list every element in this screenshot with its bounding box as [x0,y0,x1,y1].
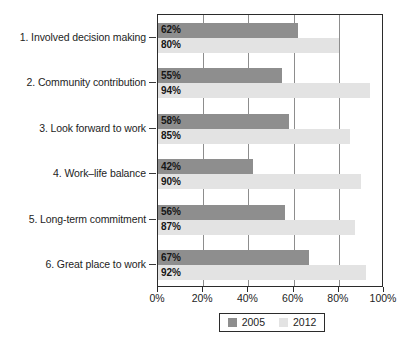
bar-row: 85% [158,129,383,144]
bar-2012-6 [158,265,366,280]
bar-value-label: 80% [161,40,181,50]
category-tick-4 [149,173,156,174]
bar-value-label: 92% [161,268,181,278]
bar-2012-3 [158,129,350,144]
gridline-40 [248,15,249,286]
bar-value-label: 94% [161,86,181,96]
bar-row: 87% [158,220,383,235]
x-tick-label-80%: 80% [327,292,348,304]
plot-area: 62%80%55%94%58%85%42%90%56%87%67%92% [157,14,383,287]
bar-row: 94% [158,83,383,98]
category-label-5: 5. Long-term commitment [0,213,146,225]
gridline-80 [339,15,340,286]
category-tick-5 [149,219,156,220]
x-axis-labels: 0%20%40%60%80%100% [0,292,406,306]
legend-swatch-2005-icon [228,318,237,327]
legend-item-2012: 2012 [279,317,316,328]
legend-item-2005: 2005 [228,317,265,328]
bar-value-label: 87% [161,222,181,232]
bar-row: 90% [158,174,383,189]
x-tick-label-0%: 0% [149,292,164,304]
x-tick-label-20%: 20% [192,292,213,304]
category-tick-3 [149,128,156,129]
bar-row: 92% [158,265,383,280]
bar-row: 55% [158,68,383,83]
bar-value-label: 42% [161,162,181,172]
bar-value-label: 62% [161,25,181,35]
bar-value-label: 85% [161,131,181,141]
gridline-60 [294,15,295,286]
bar-row: 62% [158,23,383,38]
bar-row: 42% [158,159,383,174]
x-tick-label-40%: 40% [237,292,258,304]
bar-row: 56% [158,205,383,220]
category-label-2: 2. Community contribution [0,76,146,88]
category-label-6: 6. Great place to work [0,258,146,270]
bar-value-label: 90% [161,177,181,187]
category-axis-labels: 1. Involved decision making2. Community … [0,14,146,287]
category-label-3: 3. Look forward to work [0,122,146,134]
bar-value-label: 55% [161,71,181,81]
legend-label-2012: 2012 [293,317,316,328]
bar-row: 67% [158,250,383,265]
legend-label-2005: 2005 [242,317,265,328]
category-label-4: 4. Work–life balance [0,167,146,179]
bar-chart: 1. Involved decision making2. Community … [0,0,406,338]
legend-swatch-2012-icon [279,318,288,327]
category-label-1: 1. Involved decision making [0,31,146,43]
bar-row: 58% [158,114,383,129]
bar-2012-1 [158,38,339,53]
category-tick-2 [149,82,156,83]
bar-value-label: 58% [161,116,181,126]
bar-value-label: 67% [161,253,181,263]
chart-legend: 2005 2012 [219,313,325,332]
x-tick-label-100%: 100% [370,292,397,304]
bar-value-label: 56% [161,207,181,217]
bar-2012-5 [158,220,355,235]
bar-2012-4 [158,174,361,189]
gridline-20 [203,15,204,286]
bar-row: 80% [158,38,383,53]
category-tick-6 [149,264,156,265]
bar-2012-2 [158,83,370,98]
x-tick-label-60%: 60% [282,292,303,304]
category-tick-1 [149,37,156,38]
